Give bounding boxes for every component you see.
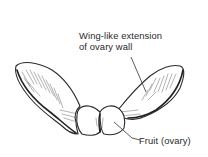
fruit-label: Fruit (ovary) [139,135,191,146]
wing-label-line-1: Wing-like extension [79,30,162,41]
samara-diagram [0,0,208,157]
right-wing [118,65,184,119]
wing-label: Wing-like extension of ovary wall [79,30,162,52]
fruit-pair [77,106,125,135]
left-wing [16,63,80,134]
fruit-label-line-1: Fruit (ovary) [139,135,191,146]
wing-label-line-2: of ovary wall [79,41,162,52]
